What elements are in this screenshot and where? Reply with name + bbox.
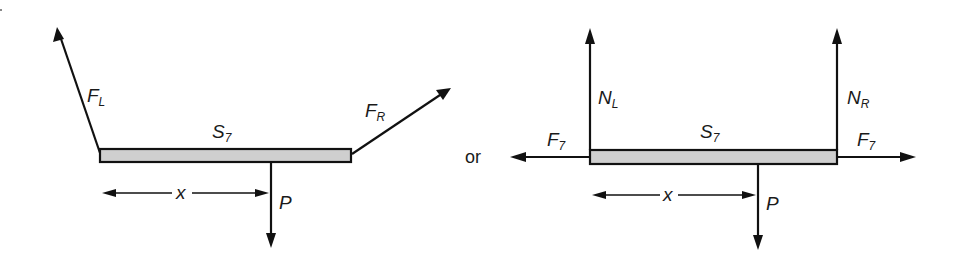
arrowhead-icon [742, 191, 756, 199]
right-diagram: NL NR F7 F7 S7 P [510, 28, 916, 250]
separator-or: or [465, 147, 481, 167]
arrowhead-icon [753, 235, 763, 250]
arrowhead-icon [832, 28, 842, 44]
arrowhead-icon [255, 189, 269, 197]
arrowhead-icon [102, 189, 116, 197]
load-label-p: P [279, 192, 292, 213]
free-body-diagram-figure: FL FR S7 P x or [0, 0, 953, 266]
load-arrow-p [266, 162, 276, 248]
force-label-f7-right: F7 [857, 129, 877, 153]
load-arrow-p [753, 164, 763, 250]
force-label-fr: FR [365, 100, 386, 124]
dimension-x: x [592, 184, 756, 205]
scan-speck [0, 9, 2, 11]
member-bar [100, 149, 351, 162]
member-label: S7 [700, 121, 721, 145]
force-label-f7-left: F7 [547, 129, 567, 153]
arrowhead-icon [592, 191, 606, 199]
force-label-nr: NR [847, 87, 870, 111]
force-arrow-nr [832, 28, 842, 150]
dimension-label-x: x [662, 184, 674, 205]
member-label: S7 [212, 121, 233, 145]
arrowhead-icon [900, 152, 916, 162]
arrowhead-icon [266, 233, 276, 248]
arrowhead-icon [585, 28, 595, 44]
load-label-p: P [766, 193, 779, 214]
force-arrow-f7-left [510, 152, 590, 162]
dimension-x: x [102, 182, 269, 203]
force-arrow-fr [352, 88, 451, 154]
arrowhead-icon [510, 152, 526, 162]
force-arrow-nl [585, 28, 595, 150]
dimension-label-x: x [175, 182, 187, 203]
arrowhead-icon [436, 88, 451, 100]
force-label-fl: FL [87, 85, 105, 109]
force-arrow-f7-right [837, 152, 916, 162]
member-bar [590, 150, 837, 164]
left-diagram: FL FR S7 P x [53, 27, 451, 248]
force-label-nl: NL [598, 87, 618, 111]
